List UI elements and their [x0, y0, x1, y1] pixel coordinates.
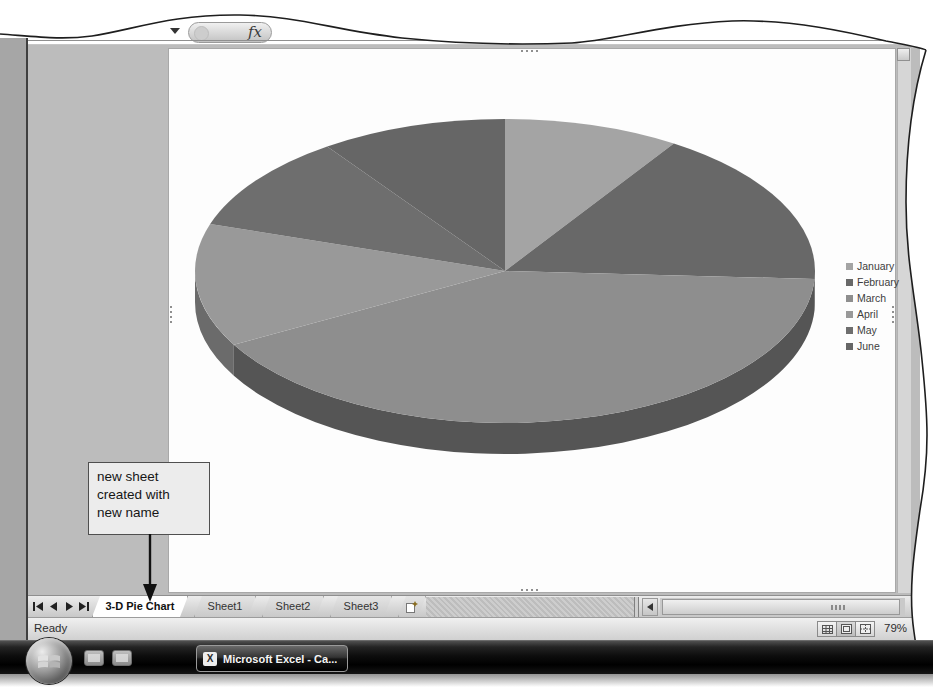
- quick-launch-icon-2[interactable]: [112, 650, 132, 666]
- legend-marker-icon: [846, 327, 853, 334]
- legend-marker-icon: [846, 343, 853, 350]
- status-ready-label: Ready: [34, 622, 67, 634]
- excel-taskbar-button[interactable]: X Microsoft Excel - Ca...: [196, 645, 348, 672]
- normal-view-icon[interactable]: [817, 621, 837, 637]
- callout-box: new sheet created with new name: [88, 462, 210, 535]
- chart-legend[interactable]: JanuaryFebruaryMarchAprilMayJune: [846, 258, 918, 354]
- legend-marker-icon: [846, 279, 853, 286]
- legend-marker-icon: [846, 311, 853, 318]
- first-sheet-icon[interactable]: [32, 599, 45, 613]
- windows-flag-icon: [38, 653, 60, 670]
- previous-sheet-icon[interactable]: [47, 599, 60, 613]
- formula-bar-bottom-border: [28, 40, 920, 41]
- sheet-tab-sheet2[interactable]: Sheet2: [262, 596, 324, 617]
- legend-item-march[interactable]: March: [846, 290, 918, 306]
- window-left-edge: [0, 38, 26, 640]
- legend-marker-icon: [846, 263, 853, 270]
- legend-item-february[interactable]: February: [846, 274, 918, 290]
- callout-arrow: [138, 534, 162, 604]
- legend-label: April: [857, 308, 878, 320]
- screenshot-page: fx JanuaryFebruaryMarchAprilMayJune new …: [0, 0, 933, 700]
- legend-label: January: [857, 260, 894, 272]
- pie-chart[interactable]: [168, 48, 896, 593]
- windows-taskbar: [0, 640, 933, 674]
- legend-label: May: [857, 324, 877, 336]
- legend-item-january[interactable]: January: [846, 258, 918, 274]
- legend-label: March: [857, 292, 886, 304]
- legend-item-june[interactable]: June: [846, 338, 918, 354]
- zoom-level-button[interactable]: 79%: [884, 622, 907, 634]
- legend-label: February: [857, 276, 899, 288]
- hscroll-left-icon[interactable]: [642, 598, 658, 616]
- scrollbar-grip: [831, 605, 845, 610]
- sheet-nav-buttons: [32, 599, 90, 613]
- tab-split-handle[interactable]: [634, 597, 639, 617]
- sheet-tab-sheet1[interactable]: Sheet1: [194, 596, 256, 617]
- sheet-tab-sheet3[interactable]: Sheet3: [330, 596, 392, 617]
- horizontal-scrollbar[interactable]: [660, 598, 905, 616]
- page-break-preview-icon[interactable]: [855, 621, 875, 637]
- view-shortcut-buttons: [818, 621, 875, 637]
- excel-app-icon: X: [203, 652, 217, 666]
- excel-taskbar-label: Microsoft Excel - Ca...: [223, 653, 337, 665]
- legend-item-may[interactable]: May: [846, 322, 918, 338]
- page-layout-view-icon[interactable]: [836, 621, 856, 637]
- name-box-shine: [194, 26, 209, 41]
- insert-worksheet-icon[interactable]: [398, 596, 426, 617]
- taskbar-shadow: [0, 674, 933, 687]
- sheet-tabs: 3-D Pie ChartSheet1Sheet2Sheet3: [86, 596, 426, 617]
- status-bar: Ready 79%: [28, 617, 920, 640]
- legend-label: June: [857, 340, 880, 352]
- tab-bar-filler: [426, 597, 634, 617]
- horizontal-scrollbar-thumb[interactable]: [662, 599, 900, 615]
- legend-marker-icon: [846, 295, 853, 302]
- name-box-dropdown-icon[interactable]: [170, 28, 180, 34]
- insert-function-icon: fx: [248, 23, 262, 41]
- windows-start-orb[interactable]: [26, 638, 72, 684]
- vertical-scrollbar-up-button[interactable]: [897, 48, 910, 61]
- legend-item-april[interactable]: April: [846, 306, 918, 322]
- quick-launch-icon-1[interactable]: [84, 650, 104, 666]
- next-sheet-icon[interactable]: [62, 599, 75, 613]
